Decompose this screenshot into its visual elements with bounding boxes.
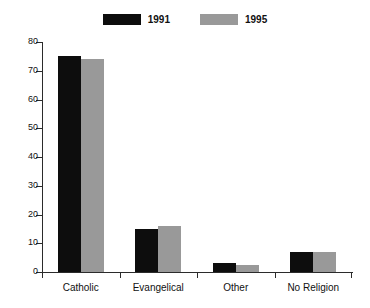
legend-label-1991: 1991 bbox=[148, 14, 170, 25]
x-axis-label-other: Other bbox=[223, 282, 248, 294]
bar-group bbox=[120, 226, 198, 272]
bar-1991-catholic bbox=[58, 56, 81, 272]
bar-group bbox=[197, 263, 275, 272]
y-tick-label: 20 bbox=[28, 209, 38, 220]
bar-1991-no-religion bbox=[290, 252, 313, 272]
legend-swatch-1991 bbox=[103, 14, 141, 25]
plot-area: 01020304050607080 bbox=[42, 42, 352, 272]
y-tick-label: 40 bbox=[28, 151, 38, 162]
bar-group bbox=[42, 56, 120, 272]
bar-1995-evangelical bbox=[158, 226, 181, 272]
bar-1995-no-religion bbox=[313, 252, 336, 272]
y-tick-label: 50 bbox=[28, 122, 38, 133]
legend-item-1995: 1995 bbox=[200, 14, 267, 25]
y-tick-label: 10 bbox=[28, 237, 38, 248]
bar-chart: 1991 1995 01020304050607080 CatholicEvan… bbox=[0, 0, 370, 308]
y-tick-label: 60 bbox=[28, 94, 38, 105]
chart-legend: 1991 1995 bbox=[0, 14, 370, 25]
legend-swatch-1995 bbox=[200, 14, 238, 25]
y-tick-label: 80 bbox=[28, 36, 38, 47]
bar-group bbox=[275, 252, 353, 272]
x-axis-label-no-religion: No Religion bbox=[287, 282, 339, 294]
x-tick-mark bbox=[120, 272, 121, 278]
x-axis-label-catholic: Catholic bbox=[63, 282, 99, 294]
bar-1995-other bbox=[236, 265, 259, 272]
x-tick-mark bbox=[351, 272, 352, 278]
bar-1995-catholic bbox=[81, 59, 104, 272]
x-tick-mark bbox=[275, 272, 276, 278]
legend-label-1995: 1995 bbox=[245, 14, 267, 25]
bar-1991-other bbox=[213, 263, 236, 272]
x-tick-mark bbox=[197, 272, 198, 278]
y-tick-label: 70 bbox=[28, 65, 38, 76]
y-tick-label: 0 bbox=[33, 266, 38, 277]
x-tick-mark bbox=[42, 272, 43, 278]
y-tick-label: 30 bbox=[28, 180, 38, 191]
bar-1991-evangelical bbox=[135, 229, 158, 272]
legend-item-1991: 1991 bbox=[103, 14, 170, 25]
x-axis-label-evangelical: Evangelical bbox=[133, 282, 184, 294]
